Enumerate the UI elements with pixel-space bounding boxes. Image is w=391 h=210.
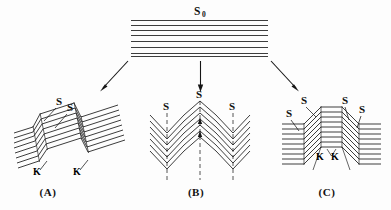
panel-c-s-label-2: S (301, 94, 307, 106)
panel-c-s-label-1-group: S (286, 107, 299, 131)
panel-c-s-label-1: S (286, 107, 292, 119)
panel-a-caption: (A) (40, 186, 57, 199)
panel-a-s-label-2: S (67, 101, 73, 113)
panel-c-s-label-2-group: S (301, 94, 316, 117)
panel-b-s-label-1: S (163, 100, 169, 112)
panel-a-k-label-1: K (33, 166, 41, 177)
panel-a-k-label-2: K (73, 166, 81, 177)
panel-c-k-label-1-group: K (316, 151, 324, 162)
panel-c-k-label-2: K (331, 151, 339, 162)
source-block-lines (131, 21, 268, 57)
arrow-to-a (100, 61, 128, 92)
panel-b-s-label-3: S (229, 100, 235, 112)
label-s0-subscript: 0 (202, 10, 206, 19)
arrow-to-c (271, 61, 299, 92)
panel-b-s-label-3-group: S (229, 100, 235, 112)
panel-c-k-label-1: K (316, 151, 324, 162)
panel-b-caption: (B) (188, 186, 204, 199)
panel-c-k-label-2-group: K (331, 151, 339, 162)
panel-b-s-label-2-group: S (196, 88, 202, 100)
panel-b-s-label-2: S (196, 88, 202, 100)
panel-b-s-label-1-group: S (163, 100, 169, 112)
panel-a-k-label-1-group: K (33, 161, 47, 177)
panel-c-s-label-3: S (342, 94, 348, 106)
panel-c: S S S S K K (282, 94, 381, 170)
panel-a: S S K K (14, 95, 125, 177)
source-block-group (131, 21, 268, 57)
structural-geology-figure: S 0 (0, 0, 391, 210)
panel-a-s-label-1: S (56, 95, 62, 107)
figure-root: S 0 (0, 0, 391, 210)
panel-a-k-label-2-group: K (73, 160, 88, 177)
label-s0: S (194, 5, 200, 17)
panel-b: S S S (150, 88, 250, 180)
panel-c-s-label-4: S (359, 103, 365, 115)
panel-c-caption: (C) (319, 186, 336, 199)
